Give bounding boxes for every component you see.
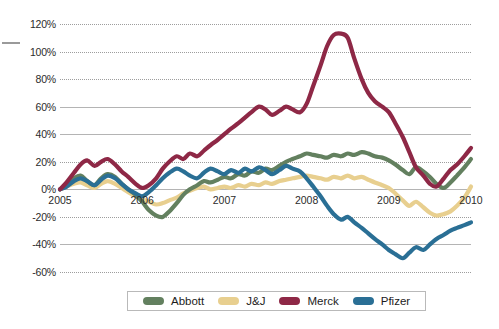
legend-swatch-icon — [353, 297, 374, 305]
chart-container: 120%100%80%60%40%20%0%-20%-40%-60% 20052… — [0, 0, 499, 329]
legend-swatch-icon — [218, 297, 239, 305]
legend-label: J&J — [246, 295, 265, 307]
x-axis-tick-label: 2008 — [295, 194, 318, 206]
x-axis-tick-label: 2010 — [459, 194, 482, 206]
legend-item-j-j[interactable]: J&J — [218, 295, 265, 307]
x-axis-tick-label: 2009 — [377, 194, 400, 206]
x-axis-tick-label: 2005 — [48, 194, 71, 206]
legend-label: Abbott — [171, 295, 204, 307]
x-axis-tick-label: 2007 — [213, 194, 236, 206]
legend-swatch-icon — [279, 297, 300, 305]
legend-label: Merck — [307, 295, 338, 307]
legend-swatch-icon — [143, 297, 164, 305]
legend-item-abbott[interactable]: Abbott — [143, 295, 204, 307]
legend-item-pfizer[interactable]: Pfizer — [353, 295, 410, 307]
x-axis-tick-label: 2006 — [131, 194, 154, 206]
legend-item-merck[interactable]: Merck — [279, 295, 338, 307]
legend-label: Pfizer — [381, 295, 410, 307]
chart-legend: AbbottJ&JMerckPfizer — [127, 291, 426, 311]
x-axis-labels: 200520062007200820092010 — [0, 0, 499, 329]
